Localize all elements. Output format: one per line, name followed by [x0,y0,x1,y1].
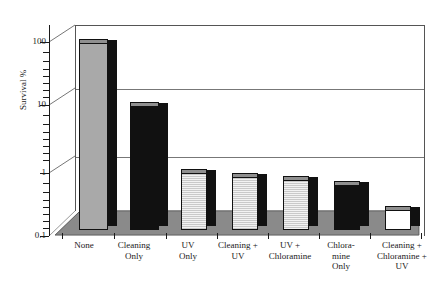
bar-cleaning-chloramine-uv [385,0,411,230]
bar-none [79,0,108,230]
category-label-cleaning-chloramine-uv: Cleaning + Chloramine + UV [362,240,442,272]
bar-chart: 100 10 1 0.1 Survival % [0,0,443,282]
bar-cleaning-uv [232,0,258,230]
category-label-chloramine-only: Chlora- mine Only [315,240,367,272]
bar-uv-chloramine [283,0,309,230]
bar-chloramine-only [334,0,360,230]
category-label-cleaning-only: Cleaning Only [104,240,164,261]
bar-cleaning-only [130,0,159,230]
bar-uv-only [181,0,207,230]
